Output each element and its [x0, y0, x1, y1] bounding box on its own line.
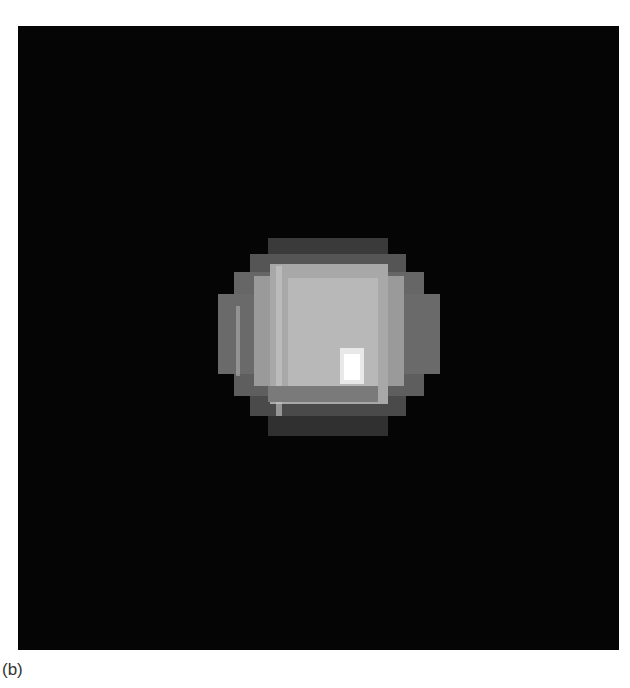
panel-label: (b)	[2, 660, 23, 680]
bright-object	[18, 26, 619, 650]
astronomical-image	[18, 26, 619, 650]
